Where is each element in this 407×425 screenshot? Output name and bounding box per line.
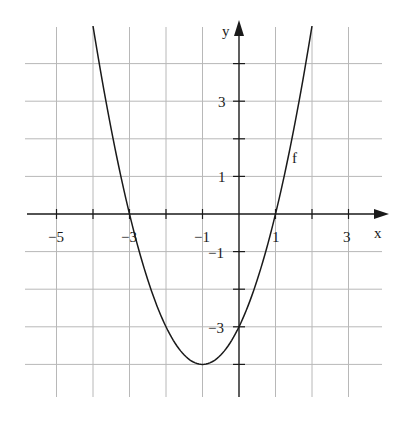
x-tick-label-1: 1 <box>272 229 280 245</box>
x-tick-label-neg3: −3 <box>121 229 137 245</box>
x-axis <box>27 209 389 219</box>
curve-label-f: f <box>292 150 297 166</box>
y-axis <box>234 20 244 397</box>
x-tick-label-3: 3 <box>343 229 351 245</box>
y-axis-label: y <box>222 23 230 39</box>
function-graph: x y f −5 −3 −1 1 3 3 1 −1 −3 <box>0 0 407 425</box>
x-tick-label-neg5: −5 <box>48 229 64 245</box>
grid <box>25 27 382 397</box>
y-tick-label-3: 3 <box>218 94 226 110</box>
x-tick-label-neg1: −1 <box>194 229 210 245</box>
x-axis-arrow-icon <box>374 209 389 219</box>
y-tick-label-1: 1 <box>218 169 226 185</box>
y-tick-label-neg1: −1 <box>208 245 224 261</box>
x-axis-label: x <box>374 225 382 241</box>
y-tick-label-neg3: −3 <box>208 320 224 336</box>
y-axis-arrow-icon <box>234 20 244 36</box>
